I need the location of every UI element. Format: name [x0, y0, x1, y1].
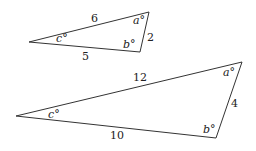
- similar-triangles-diagram: 6 2 5 a° b° c° 12 4 10 a° b° c°: [0, 0, 256, 151]
- large-angle-b-label: b°: [203, 123, 216, 136]
- large-angle-c-label: c°: [48, 108, 60, 121]
- large-side-top-label: 12: [133, 71, 147, 84]
- large-side-bottom-label: 10: [110, 129, 124, 142]
- small-side-top-label: 6: [91, 12, 98, 25]
- large-side-right-label: 4: [231, 97, 238, 110]
- small-angle-a-label: a°: [133, 14, 145, 27]
- large-triangle: 12 4 10 a° b° c°: [16, 62, 242, 142]
- small-angle-c-label: c°: [56, 32, 68, 45]
- large-angle-a-label: a°: [223, 66, 235, 79]
- small-side-right-label: 2: [147, 31, 154, 44]
- small-triangle: 6 2 5 a° b° c°: [29, 12, 154, 63]
- small-angle-b-label: b°: [123, 38, 136, 51]
- small-side-bottom-label: 5: [82, 50, 89, 63]
